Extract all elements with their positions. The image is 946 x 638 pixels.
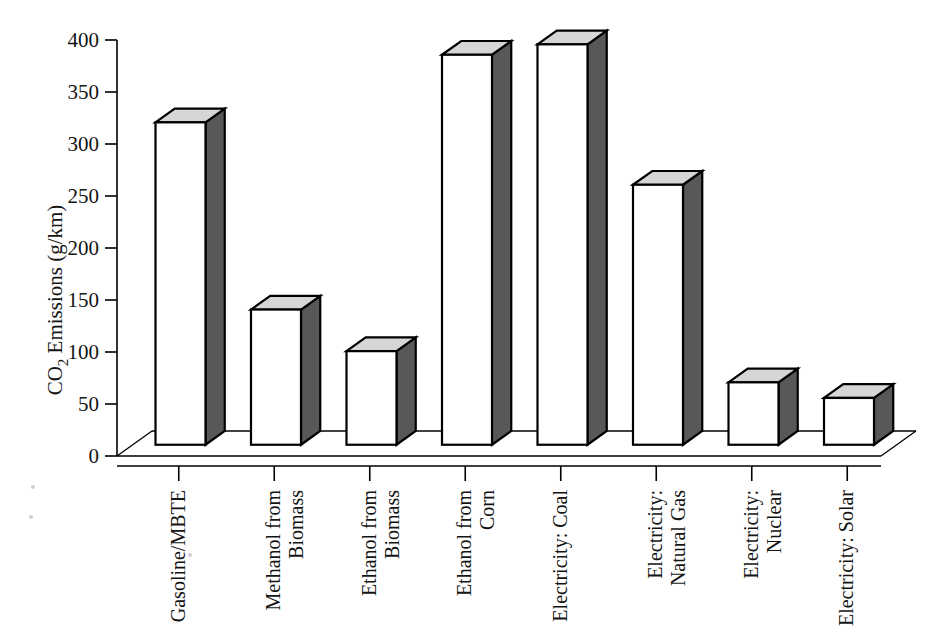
floor-left-diagonal [117,431,152,456]
x-axis [117,466,881,481]
category-label-line: Electricity: [740,490,763,579]
y-tick-label-150: 150 [68,288,100,312]
category-label-1: Gasoline/MBTE [167,490,189,622]
bar-side-face [301,296,320,445]
y-tick-label-200: 200 [68,236,100,260]
y-tick-label-350: 350 [68,80,100,104]
category-label-5: Electricity: Coal [549,490,572,622]
bar-front-face [633,185,683,445]
page-speck [31,485,35,489]
co2-emissions-bar-chart: CO2 Emissions (g/km) 0 50 100 150 200 25… [0,0,946,638]
y-tick-label-100: 100 [68,340,100,364]
y-axis-title-suffix: Emissions (g/km) [43,205,67,359]
bar-side-face [397,337,416,444]
category-label-line: Nuclear [763,490,785,554]
y-tick-label-300: 300 [68,132,100,156]
bar-side-face [492,41,511,445]
category-label-2: Methanol fromBiomass [262,490,307,611]
y-tick-label-250: 250 [68,184,100,208]
category-label-3: Ethanol fromBiomass [358,490,403,597]
x-axis-ticks [179,466,848,481]
category-label-line: Electricity: Solar [835,490,858,626]
bar-3[interactable] [347,337,416,444]
plot-floor [117,431,916,456]
y-tick-label-400: 400 [68,28,100,52]
bar-1[interactable] [156,109,225,445]
bar-6[interactable] [633,171,702,445]
category-label-line: Corn [476,490,498,530]
bars-group [156,31,894,445]
bar-front-face [251,310,301,445]
category-label-line: Gasoline/MBTE [167,490,189,622]
y-axis-title-prefix: CO [43,366,67,395]
category-label-line: Biomass [381,490,403,559]
bar-side-face [683,171,702,445]
bar-side-face [206,109,225,445]
bar-front-face [538,44,588,444]
category-label-line: Electricity: Coal [549,490,572,622]
bar-front-face [347,351,397,445]
category-label-line: Ethanol from [453,490,475,597]
bar-front-face [824,398,874,445]
chart-container: CO2 Emissions (g/km) 0 50 100 150 200 25… [0,0,946,638]
bar-2[interactable] [251,296,320,445]
category-labels: Gasoline/MBTEMethanol fromBiomassEthanol… [167,490,859,627]
bar-5[interactable] [538,31,607,445]
y-axis-ticks: 0 50 100 150 200 250 300 350 400 [68,28,118,468]
bar-front-face [442,55,492,445]
category-label-line: Biomass [285,490,307,559]
bar-front-face [156,122,206,444]
category-label-6: Electricity:Natural Gas [644,490,689,586]
bar-4[interactable] [442,41,511,445]
bar-front-face [729,382,779,444]
y-tick-label-0: 0 [89,444,100,468]
category-label-8: Electricity: Solar [835,490,858,626]
page-speck [29,515,33,519]
category-label-line: Ethanol from [358,490,380,597]
category-label-line: Natural Gas [667,490,689,586]
bar-7[interactable] [729,369,798,445]
category-label-line: Electricity: [644,490,667,579]
bar-side-face [588,31,607,445]
bar-8[interactable] [824,384,893,445]
category-label-line: Methanol from [262,490,284,611]
y-tick-label-50: 50 [78,392,99,416]
category-label-7: Electricity:Nuclear [740,490,785,579]
category-label-4: Ethanol fromCorn [453,490,498,597]
